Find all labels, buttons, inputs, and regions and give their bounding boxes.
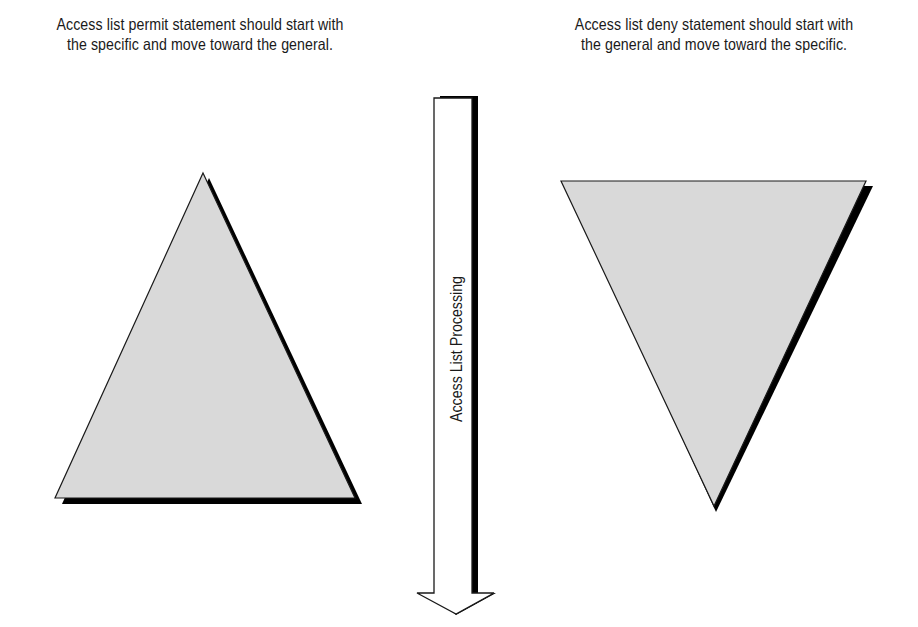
permit-triangle-shape (55, 173, 355, 498)
permit-triangle (55, 173, 362, 504)
deny-triangle-shape (561, 181, 866, 506)
deny-triangle (561, 181, 873, 512)
processing-arrow-label: Access List Processing (445, 246, 467, 452)
